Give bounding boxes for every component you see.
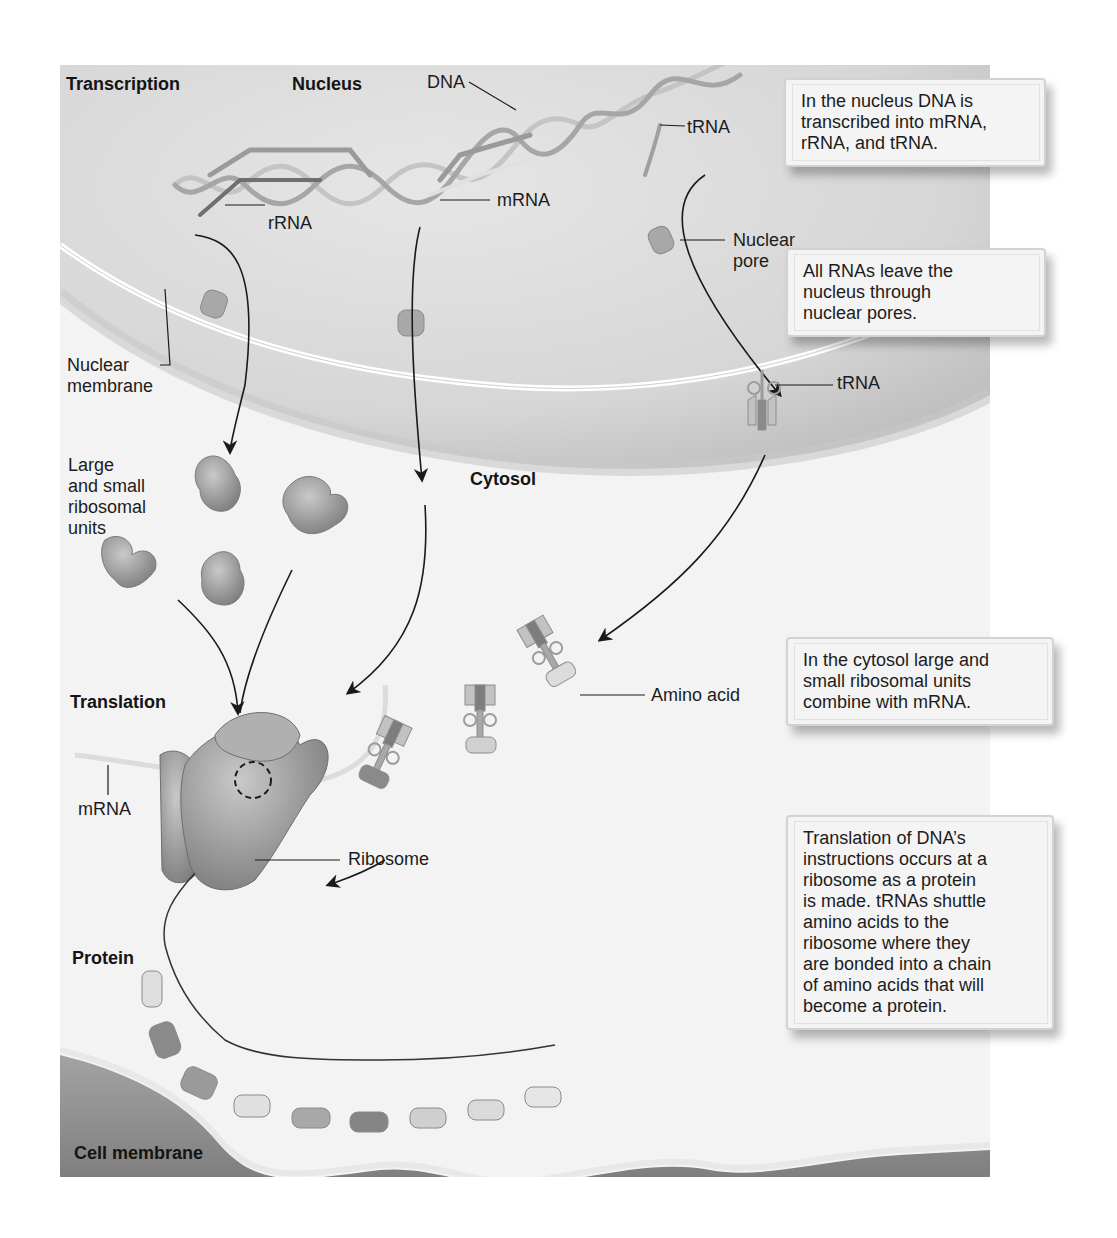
header-cytosol: Cytosol — [470, 469, 536, 490]
small-subunit — [201, 552, 244, 605]
header-protein: Protein — [72, 948, 134, 969]
label-mrna-nucleus: mRNA — [497, 190, 550, 211]
label-trna-nucleus: tRNA — [687, 117, 730, 138]
header-transcription: Transcription — [66, 74, 180, 95]
label-nuclear-membrane: Nuclear membrane — [67, 355, 153, 397]
header-cell-membrane: Cell membrane — [74, 1143, 203, 1164]
label-rrna: rRNA — [268, 213, 312, 234]
callout-translation: Translation of DNA’s instructions occurs… — [786, 815, 1054, 1030]
label-ribosome: Ribosome — [348, 849, 429, 870]
callout-cytosol-combine: In the cytosol large and small ribosomal… — [786, 637, 1054, 726]
protein-synthesis-figure: Transcription Nucleus Cytosol Translatio… — [60, 65, 990, 1177]
label-dna: DNA — [427, 72, 465, 93]
header-translation: Translation — [70, 692, 166, 713]
label-amino-acid: Amino acid — [651, 685, 740, 706]
label-trna-cytosol: tRNA — [837, 373, 880, 394]
header-nucleus: Nucleus — [292, 74, 362, 95]
callout-transcription: In the nucleus DNA is transcribed into m… — [784, 78, 1046, 167]
label-mrna-translation: mRNA — [78, 799, 131, 820]
label-ribosomal-units: Large and small ribosomal units — [68, 455, 146, 539]
callout-nuclear-pores: All RNAs leave the nucleus through nucle… — [786, 248, 1046, 337]
